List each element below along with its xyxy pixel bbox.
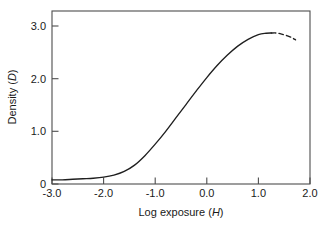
x-tick-label: 1.0 [251,187,266,199]
y-axis-title: Density (D) [6,69,18,124]
x-tick-label: 2.0 [302,187,317,199]
y-tick-label: 3.0 [31,20,46,32]
y-tick-label: 1.0 [31,125,46,137]
y-axis-title-text: Density [6,87,18,124]
chart-svg: -3.0 -2.0 -1.0 0.0 1.0 2.0 0 1.0 2.0 3.0… [0,0,326,227]
x-tick-label: -1.0 [146,187,165,199]
x-axis-title-symbol: H [212,206,220,218]
y-axis-title-symbol: D [6,73,18,81]
x-axis-title: Log exposure (H) [138,206,223,218]
x-tick-label: -2.0 [94,187,113,199]
y-tick-label: 0 [40,178,46,190]
x-axis-title-text: Log exposure [138,206,205,218]
characteristic-curve-figure: -3.0 -2.0 -1.0 0.0 1.0 2.0 0 1.0 2.0 3.0… [0,0,326,227]
x-tick-label: 0.0 [199,187,214,199]
y-tick-label: 2.0 [31,73,46,85]
